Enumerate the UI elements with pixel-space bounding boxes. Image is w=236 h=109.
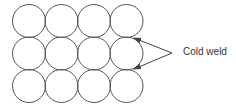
arrow <box>134 38 172 53</box>
particle-circle <box>45 70 78 103</box>
particle-grid <box>13 5 144 103</box>
particle-circle <box>110 5 143 38</box>
particle-circle <box>110 70 143 103</box>
particle-circle <box>45 5 78 38</box>
particle-circle <box>13 70 46 103</box>
cold-weld-arrows <box>134 38 172 69</box>
particle-circle <box>78 70 111 103</box>
arrow <box>134 53 172 69</box>
particle-circle <box>13 5 46 38</box>
particle-circle <box>45 37 78 70</box>
particle-circle <box>78 37 111 70</box>
particle-circle <box>110 37 143 70</box>
particle-circle <box>78 5 111 38</box>
cold-weld-label: Cold weld <box>183 46 227 57</box>
particle-circle <box>13 37 46 70</box>
